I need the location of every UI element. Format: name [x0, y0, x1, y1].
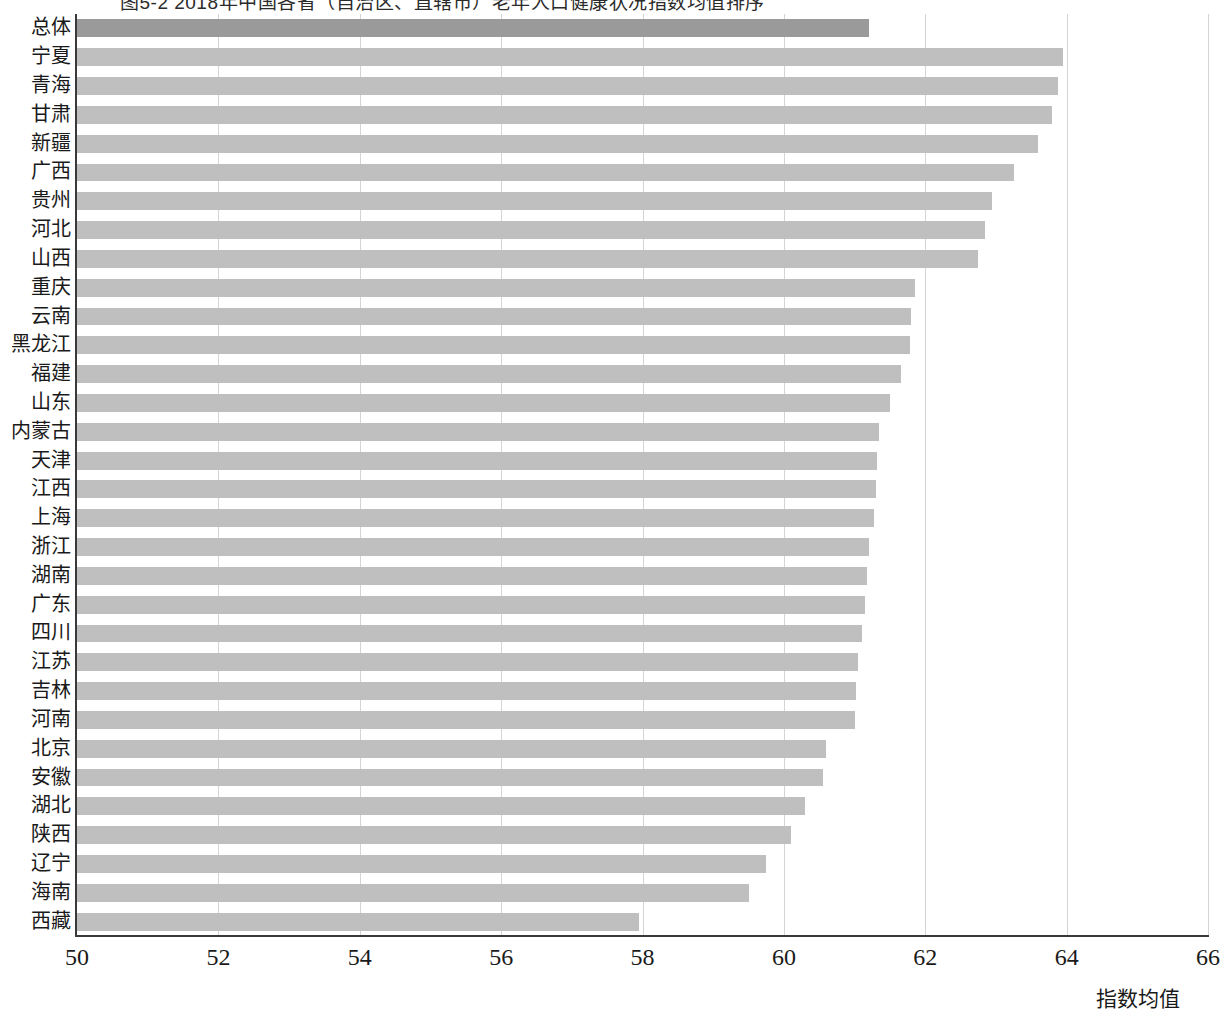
- bar-row: [77, 221, 1208, 239]
- bar-重庆: [77, 279, 915, 297]
- bar-row: [77, 797, 1208, 815]
- y-axis-label-山东: 山东: [31, 392, 71, 412]
- bar-云南: [77, 308, 911, 326]
- x-tick-66: 66: [1196, 944, 1220, 971]
- bar-辽宁: [77, 855, 766, 873]
- x-axis-line: [75, 935, 1209, 937]
- x-tick-54: 54: [348, 944, 372, 971]
- figure-title-clipped: 图5-2 2018年中国各省（自治区、直辖市）老年人口健康状况指数均值排序: [0, 0, 1230, 12]
- bar-row: [77, 106, 1208, 124]
- y-axis-label-湖北: 湖北: [31, 795, 71, 815]
- bar-row: [77, 164, 1208, 182]
- y-axis-label-宁夏: 宁夏: [31, 46, 71, 66]
- y-axis-label-河南: 河南: [31, 709, 71, 729]
- y-axis-label-上海: 上海: [31, 507, 71, 527]
- y-axis-label-山西: 山西: [31, 248, 71, 268]
- bar-row: [77, 538, 1208, 556]
- bar-上海: [77, 509, 874, 527]
- y-axis-label-西藏: 西藏: [31, 911, 71, 931]
- bar-山东: [77, 394, 890, 412]
- bar-row: [77, 48, 1208, 66]
- bar-row: [77, 625, 1208, 643]
- bar-row: [77, 480, 1208, 498]
- bar-总体: [77, 19, 869, 37]
- bar-row: [77, 711, 1208, 729]
- bar-row: [77, 653, 1208, 671]
- figure-title-text: 图5-2 2018年中国各省（自治区、直辖市）老年人口健康状况指数均值排序: [120, 0, 765, 12]
- plot-area: [77, 14, 1208, 936]
- bar-row: [77, 826, 1208, 844]
- bar-新疆: [77, 135, 1038, 153]
- x-tick-58: 58: [631, 944, 655, 971]
- x-tick-64: 64: [1055, 944, 1079, 971]
- bar-西藏: [77, 913, 639, 931]
- y-axis-label-贵州: 贵州: [31, 190, 71, 210]
- x-axis-title: 指数均值: [1096, 982, 1180, 1012]
- bar-row: [77, 855, 1208, 873]
- bar-row: [77, 336, 1208, 354]
- bar-四川: [77, 625, 862, 643]
- bar-row: [77, 509, 1208, 527]
- bar-row: [77, 913, 1208, 931]
- bar-山西: [77, 250, 978, 268]
- bar-row: [77, 77, 1208, 95]
- bar-row: [77, 19, 1208, 37]
- bar-row: [77, 769, 1208, 787]
- bar-吉林: [77, 682, 856, 700]
- bar-广西: [77, 164, 1014, 182]
- bar-黑龙江: [77, 336, 910, 354]
- bar-row: [77, 423, 1208, 441]
- bar-内蒙古: [77, 423, 879, 441]
- bar-row: [77, 135, 1208, 153]
- y-axis-label-辽宁: 辽宁: [31, 853, 71, 873]
- bar-row: [77, 308, 1208, 326]
- bar-江西: [77, 480, 876, 498]
- bar-广东: [77, 596, 865, 614]
- x-tick-56: 56: [489, 944, 513, 971]
- bar-row: [77, 567, 1208, 585]
- bar-row: [77, 682, 1208, 700]
- y-axis-label-安徽: 安徽: [31, 767, 71, 787]
- bar-海南: [77, 884, 749, 902]
- x-tick-52: 52: [206, 944, 230, 971]
- bar-河北: [77, 221, 985, 239]
- bar-湖南: [77, 567, 867, 585]
- bar-浙江: [77, 538, 869, 556]
- y-axis-label-天津: 天津: [31, 450, 71, 470]
- bar-贵州: [77, 192, 992, 210]
- bar-row: [77, 192, 1208, 210]
- bar-row: [77, 279, 1208, 297]
- bar-江苏: [77, 653, 858, 671]
- y-axis-label-北京: 北京: [31, 738, 71, 758]
- bar-宁夏: [77, 48, 1063, 66]
- bar-甘肃: [77, 106, 1052, 124]
- y-axis-label-广西: 广西: [31, 161, 71, 181]
- bar-河南: [77, 711, 855, 729]
- y-axis-label-甘肃: 甘肃: [31, 104, 71, 124]
- y-axis-label-福建: 福建: [31, 363, 71, 383]
- x-axis-tick-labels: 505254565860626466: [0, 944, 1230, 978]
- y-axis-label-黑龙江: 黑龙江: [11, 334, 71, 354]
- bar-湖北: [77, 797, 805, 815]
- y-axis-label-陕西: 陕西: [31, 824, 71, 844]
- bar-福建: [77, 365, 901, 383]
- y-axis-label-新疆: 新疆: [31, 133, 71, 153]
- x-tick-50: 50: [65, 944, 89, 971]
- bar-安徽: [77, 769, 823, 787]
- bar-row: [77, 365, 1208, 383]
- y-axis-label-云南: 云南: [31, 306, 71, 326]
- y-axis-label-四川: 四川: [31, 622, 71, 642]
- y-axis-label-青海: 青海: [31, 75, 71, 95]
- y-axis-label-河北: 河北: [31, 219, 71, 239]
- gridline: [1208, 14, 1209, 936]
- bar-row: [77, 740, 1208, 758]
- bar-row: [77, 884, 1208, 902]
- y-axis-label-江苏: 江苏: [31, 651, 71, 671]
- bar-陕西: [77, 826, 791, 844]
- y-axis-label-内蒙古: 内蒙古: [11, 421, 71, 441]
- bar-row: [77, 596, 1208, 614]
- bar-row: [77, 452, 1208, 470]
- bar-row: [77, 394, 1208, 412]
- y-axis-label-湖南: 湖南: [31, 565, 71, 585]
- y-axis-label-海南: 海南: [31, 882, 71, 902]
